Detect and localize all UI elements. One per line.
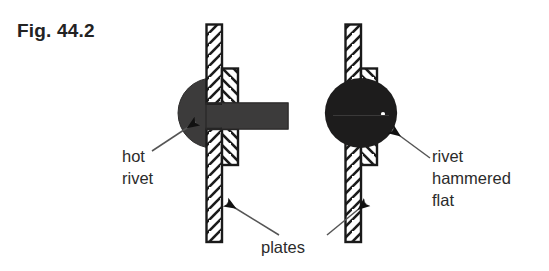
label-rivet-hammered-flat-line3: flat [432,190,511,212]
label-rivet-hammered-flat-line2: hammered [432,168,511,190]
figure-container: Fig. 44.2 hot rivet rivet hammered flat … [0,0,549,271]
hammered-rivet-assembly [325,25,397,243]
label-hot-rivet: hot rivet [122,146,153,190]
label-plates: plates [261,237,305,259]
label-rivet-hammered-flat-line1: rivet [432,146,511,168]
leader-rivet-hammered-flat [392,130,430,158]
hot-rivet-assembly [178,25,288,243]
label-rivet-hammered-flat: rivet hammered flat [432,146,511,212]
hot-rivet-shank-overlap [222,103,288,129]
figure-title: Fig. 44.2 [17,20,95,42]
leader-plates-left [227,203,279,235]
hammered-rivet-body [325,78,397,148]
label-plates-text: plates [261,237,305,259]
label-hot-rivet-line2: rivet [122,168,153,190]
plate-near-left-assembly [207,25,223,243]
label-hot-rivet-line1: hot [122,146,153,168]
